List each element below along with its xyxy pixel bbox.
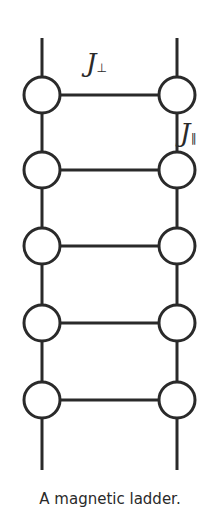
j-perp-symbol: J [86,48,96,78]
spin-node [24,228,60,264]
j-par-subscript: ∥ [190,131,196,145]
caption: A magnetic ladder. [0,490,220,508]
spin-node [159,228,195,264]
spin-node [24,77,60,113]
spin-node [24,382,60,418]
j-perp-subscript: ⊥ [96,61,106,75]
ladder-diagram [0,0,220,519]
j-perp-label: J⊥ [86,48,107,78]
spin-node [159,305,195,341]
j-par-label: J∥ [180,118,196,148]
spin-node [159,382,195,418]
j-par-symbol: J [180,118,190,148]
spin-node [159,77,195,113]
spin-node [24,152,60,188]
spin-node [159,152,195,188]
spin-node [24,305,60,341]
